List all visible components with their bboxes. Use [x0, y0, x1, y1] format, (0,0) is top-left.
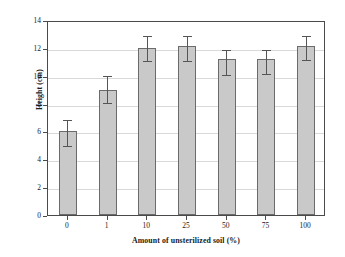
- y-tick-label: 14: [7, 17, 41, 25]
- x-tick-mark: [265, 216, 266, 220]
- bar: [297, 46, 315, 215]
- x-tick-mark: [67, 216, 68, 220]
- y-axis-title: Height (cm): [35, 45, 44, 135]
- x-tick-label: 1: [87, 221, 127, 230]
- error-bar-cap-top: [63, 120, 72, 121]
- y-tick-label: 2: [7, 184, 41, 192]
- bar: [178, 46, 196, 215]
- error-bar-cap-top: [302, 36, 311, 37]
- y-tick-label: 0: [7, 212, 41, 220]
- y-tick-label: 12: [7, 45, 41, 53]
- y-tick-mark: [43, 216, 47, 217]
- y-tick-label: 4: [7, 156, 41, 164]
- x-tick-label: 100: [285, 221, 325, 230]
- x-tick-mark: [107, 216, 108, 220]
- x-tick-mark: [186, 216, 187, 220]
- error-bar-cap-top: [183, 36, 192, 37]
- x-tick-label: 25: [166, 221, 206, 230]
- plot-area: [47, 21, 325, 216]
- y-tick-label: 8: [7, 101, 41, 109]
- bar: [218, 59, 236, 215]
- error-bar-cap-top: [143, 36, 152, 37]
- y-tick-label: 6: [7, 128, 41, 136]
- bar: [257, 59, 275, 215]
- x-tick-mark: [305, 216, 306, 220]
- x-tick-label: 10: [126, 221, 166, 230]
- bar: [59, 131, 77, 215]
- x-tick-label: 0: [47, 221, 87, 230]
- x-tick-label: 75: [245, 221, 285, 230]
- y-tick-label: 10: [7, 73, 41, 81]
- x-tick-label: 50: [206, 221, 246, 230]
- x-tick-mark: [146, 216, 147, 220]
- x-axis-title: Amount of unsterilized soil (%): [47, 236, 325, 245]
- bar: [99, 90, 117, 215]
- bar-chart: Height (cm) 02468101214 0110255075100 Am…: [0, 0, 345, 257]
- x-tick-mark: [226, 216, 227, 220]
- bar: [138, 48, 156, 215]
